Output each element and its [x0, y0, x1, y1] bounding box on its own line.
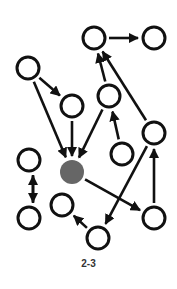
node-B	[143, 27, 165, 49]
highlighted-node-H	[60, 160, 84, 184]
nodes-layer	[17, 27, 165, 249]
node-K	[51, 194, 73, 216]
edge-C-to-H	[34, 82, 66, 157]
node-F	[143, 122, 165, 144]
edge-M-to-K	[74, 216, 87, 228]
edge-H-to-L	[85, 179, 140, 210]
node-G	[111, 143, 133, 165]
directed-graph	[0, 0, 177, 289]
edge-E-to-H	[79, 109, 102, 157]
edge-E-to-A	[98, 53, 105, 81]
edge-G-to-E	[112, 112, 118, 140]
figure-caption: 2-3	[0, 258, 177, 269]
edge-C-to-D	[39, 78, 60, 96]
node-M	[87, 227, 109, 249]
node-E	[98, 85, 120, 107]
node-L	[143, 207, 165, 229]
node-I	[18, 149, 40, 171]
node-J	[18, 207, 40, 229]
node-C	[17, 57, 39, 79]
node-D	[61, 95, 83, 117]
node-A	[83, 27, 105, 49]
